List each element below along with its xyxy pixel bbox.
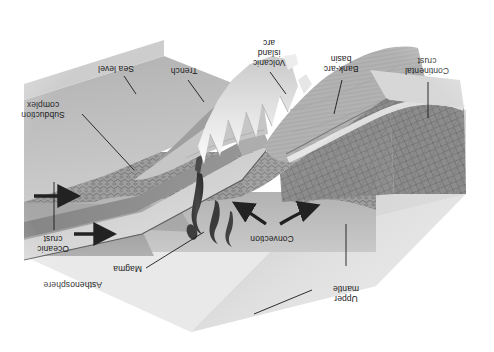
label-magma: Magma bbox=[82, 264, 142, 274]
figure-canvas: Upper mantle Convection Magma Asthenosph… bbox=[0, 0, 494, 352]
label-convection: Convection bbox=[226, 234, 318, 244]
label-sea-level: Sea level bbox=[88, 64, 144, 74]
label-asthenosphere: Asthenosphere bbox=[0, 280, 102, 290]
label-back-arc-basin: Bank-arc basin bbox=[312, 54, 370, 74]
rotated-illustration-group: Upper mantle Convection Magma Asthenosph… bbox=[0, 0, 494, 352]
label-trench: Trench bbox=[160, 66, 208, 76]
label-oceanic-crust: Oceanic crust bbox=[24, 234, 82, 254]
label-continental-crust: Continental crust bbox=[394, 56, 460, 76]
label-volcanic-island-arc: Volcanic island arc bbox=[244, 38, 294, 68]
label-upper-mantle: Upper mantle bbox=[316, 284, 376, 304]
label-subduction-complex: Subduction complex bbox=[6, 100, 80, 120]
